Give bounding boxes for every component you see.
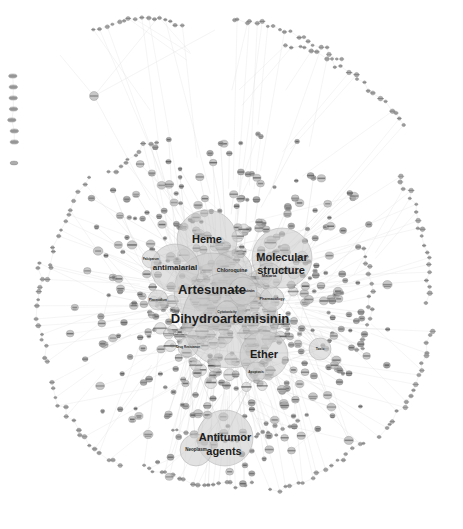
node-label: Plasmodium: [149, 298, 167, 302]
node-label: Malaria: [262, 273, 277, 278]
node-label: agents: [206, 445, 241, 457]
node-label: Neoplasm: [185, 447, 207, 452]
graph-svg: HemeMolecularstructureChloroquineArtesun…: [0, 0, 463, 529]
node-label: Artemisinin: [231, 288, 254, 293]
node-label: antimalarial: [153, 263, 197, 272]
node-label: Molecular: [256, 251, 308, 263]
node-label: Ether: [250, 348, 279, 360]
network-graph-canvas: HemeMolecularstructureChloroquineArtesun…: [0, 0, 463, 529]
node-label: Antitumor: [199, 431, 252, 443]
node-label: Heme: [192, 233, 222, 245]
node-label: Apoptosis: [248, 370, 264, 374]
node-label: Pharmacology: [260, 297, 285, 301]
node-label: Cytotoxicity: [217, 310, 237, 314]
node-label: Chloroquine: [217, 267, 248, 273]
node-label: Drug Resistance: [176, 345, 200, 349]
node-label: Toxic: [316, 347, 325, 351]
node-label: Falciparum: [143, 257, 159, 261]
